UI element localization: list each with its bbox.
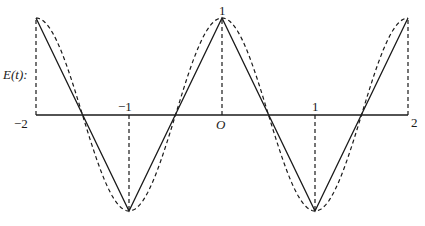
x-tick-label-pos2: 2 — [411, 116, 418, 129]
x-tick-label-neg1: −1 — [118, 100, 132, 113]
chart-canvas — [0, 0, 425, 226]
x-tick-label-pos1: 1 — [312, 100, 319, 113]
x-tick-label-neg2: −2 — [14, 117, 28, 130]
y-axis-label: E(t): — [3, 68, 28, 81]
y-tick-label-1: 1 — [219, 4, 226, 17]
x-tick-label-origin: O — [216, 118, 225, 131]
